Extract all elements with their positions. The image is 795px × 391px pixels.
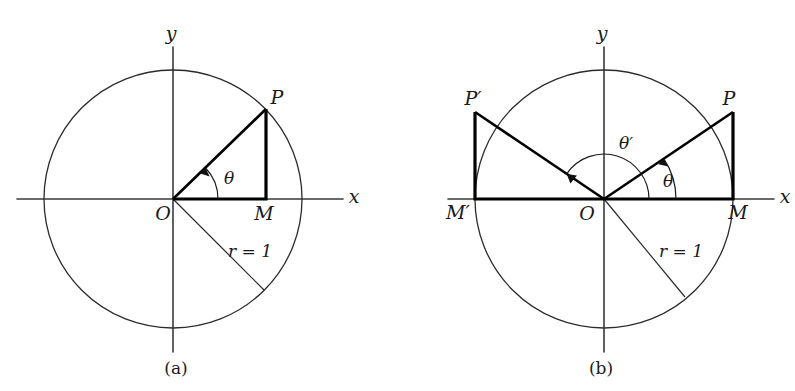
panel-a-graphics [17, 47, 343, 352]
panel-a-angle-theta-label: θ [224, 170, 234, 187]
panel-a-angle-arrowhead [200, 168, 210, 176]
panel-a-origin-label: O [155, 204, 171, 223]
diagram-canvas [0, 0, 795, 391]
panel-b-y-axis-label: y [597, 24, 608, 43]
panel-a-x-axis-label: x [349, 187, 360, 206]
panel-b-radius-label: r = 1 [659, 243, 703, 260]
panel-a-point-p-label: P [271, 88, 284, 107]
panel-a-y-axis-label: y [166, 24, 177, 43]
panel-a-caption: (a) [164, 360, 187, 377]
panel-b-point-p-label: P [723, 89, 736, 108]
panel-b-x-axis-label: x [780, 187, 791, 206]
panel-b-origin-label: O [579, 204, 595, 223]
panel-b-caption: (b) [589, 360, 613, 377]
panel-a-hypotenuse-OP [173, 109, 266, 199]
panel-a-radius-label: r = 1 [228, 243, 272, 260]
panel-b-angle-theta-label: θ [663, 173, 673, 190]
figure-root: y x O P M θ r = 1 (a) y x O P M P′ M′ θ … [0, 0, 795, 391]
panel-b-foot-m-label: M [728, 203, 747, 222]
panel-a-foot-m-label: M [254, 204, 273, 223]
panel-b-foot-m-prime-label: M′ [446, 203, 470, 222]
panel-b-hypotenuse-OP-prime [475, 112, 604, 199]
panel-b-angle-theta-prime-label: θ′ [619, 135, 633, 152]
panel-b-point-p-prime-label: P′ [464, 89, 481, 108]
